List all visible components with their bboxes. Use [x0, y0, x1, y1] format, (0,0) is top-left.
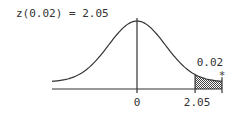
chart-title: z(0.02) = 2.05	[16, 7, 109, 20]
tail-marker: *	[219, 69, 226, 82]
tick-label-z: 2.05	[184, 96, 211, 109]
normal-curve-chart: z(0.02) = 2.05 0 2.05 0.02 *	[0, 0, 240, 114]
tail-area-label: 0.02	[197, 56, 224, 69]
tick-label-0: 0	[134, 96, 141, 109]
